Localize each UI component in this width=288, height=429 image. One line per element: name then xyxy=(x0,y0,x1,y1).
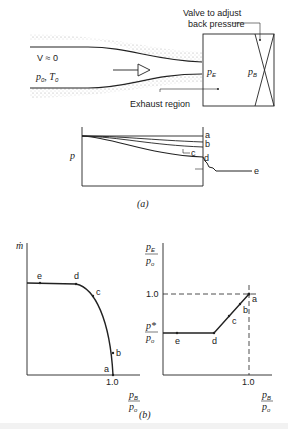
stagnation-p: p0, T0 xyxy=(35,71,59,83)
exit-pressure-plot: pE po 1.0 p* po e d c b a 1.0 pB po xyxy=(145,241,273,413)
caption-a: (a) xyxy=(137,198,149,210)
exit-pressure-curve xyxy=(163,294,249,333)
mass-flow-plot: ṁ e d c b a 1.0 pB po xyxy=(16,240,140,413)
curve-d xyxy=(82,136,203,157)
svg-text:b: b xyxy=(205,139,210,149)
velocity-label: V ≈ 0 xyxy=(37,53,58,63)
converging-nozzle-figure: Valve to adjust back pressure V ≈ 0 p0, … xyxy=(0,0,288,429)
exhaust-region-label: Exhaust region xyxy=(130,99,190,109)
exhaust-chamber xyxy=(203,34,274,106)
nozzle-schematic: Valve to adjust back pressure V ≈ 0 p0, … xyxy=(30,8,274,109)
valve-label-1: Valve to adjust xyxy=(183,8,242,18)
svg-text:d: d xyxy=(204,153,209,163)
svg-text:1.0: 1.0 xyxy=(146,289,159,299)
page-edge xyxy=(0,423,288,429)
left-xlabel-den: po xyxy=(128,401,138,413)
svg-text:b: b xyxy=(116,348,121,358)
svg-text:p*: p* xyxy=(145,320,156,331)
svg-text:b: b xyxy=(243,305,248,315)
svg-text:a: a xyxy=(252,294,257,304)
svg-text:a: a xyxy=(104,364,109,374)
svg-text:pB: pB xyxy=(261,389,271,401)
p-axis-label: p xyxy=(69,150,75,161)
svg-text:po: po xyxy=(145,332,155,344)
svg-text:e: e xyxy=(175,336,180,346)
svg-text:1.0: 1.0 xyxy=(106,377,119,387)
svg-text:po: po xyxy=(145,255,155,267)
flow-arrow-head-icon xyxy=(138,64,150,76)
svg-text:c: c xyxy=(96,287,101,297)
back-pressure-label: pB xyxy=(247,66,257,78)
svg-text:c: c xyxy=(232,316,237,326)
exhaust-leader xyxy=(160,89,218,92)
svg-text:po: po xyxy=(261,401,271,413)
caption-b: (b) xyxy=(139,409,151,421)
svg-text:e: e xyxy=(254,166,259,176)
svg-text:d: d xyxy=(212,336,217,346)
left-xlabel-num: pB xyxy=(128,389,138,401)
svg-text:c: c xyxy=(191,148,196,158)
svg-text:1.0: 1.0 xyxy=(242,377,255,387)
exit-pressure-label: pE xyxy=(206,66,217,78)
curve-e xyxy=(203,157,252,171)
svg-text:pE: pE xyxy=(145,241,156,253)
svg-text:d: d xyxy=(74,271,79,281)
mdot-label: ṁ xyxy=(16,240,23,251)
valve-label-2: back pressure xyxy=(188,19,245,29)
svg-text:e: e xyxy=(37,271,42,281)
pressure-distribution-plot: p a b c d e (a) xyxy=(69,127,259,210)
